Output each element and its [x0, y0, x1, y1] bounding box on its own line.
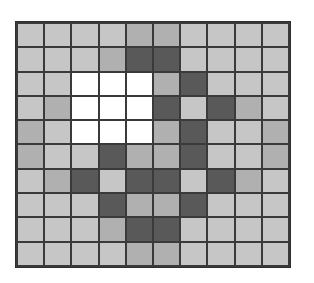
medium-gray-cell [100, 48, 125, 70]
light-gray-cell [18, 194, 43, 216]
dark-gray-cell [127, 218, 152, 240]
medium-gray-cell [18, 121, 43, 143]
dark-gray-cell [100, 145, 125, 167]
medium-gray-cell [127, 194, 152, 216]
dark-gray-cell [72, 170, 97, 192]
medium-gray-cell [154, 243, 179, 265]
white-cell [72, 97, 97, 119]
light-gray-cell [45, 194, 70, 216]
light-gray-cell [45, 243, 70, 265]
medium-gray-cell [154, 121, 179, 143]
light-gray-cell [181, 170, 206, 192]
dark-gray-cell [208, 170, 233, 192]
light-gray-cell [236, 73, 261, 95]
light-gray-cell [236, 24, 261, 46]
medium-gray-cell [154, 194, 179, 216]
light-gray-cell [18, 218, 43, 240]
medium-gray-cell [127, 145, 152, 167]
white-cell [127, 73, 152, 95]
medium-gray-cell [263, 145, 288, 167]
light-gray-cell [45, 24, 70, 46]
light-gray-cell [18, 97, 43, 119]
light-gray-cell [208, 145, 233, 167]
white-cell [100, 121, 125, 143]
white-cell [127, 121, 152, 143]
light-gray-cell [18, 48, 43, 70]
medium-gray-cell [127, 24, 152, 46]
medium-gray-cell [45, 170, 70, 192]
light-gray-cell [263, 194, 288, 216]
light-gray-cell [72, 145, 97, 167]
dark-gray-cell [154, 97, 179, 119]
dark-gray-cell [181, 145, 206, 167]
light-gray-cell [263, 170, 288, 192]
medium-gray-cell [263, 121, 288, 143]
image-canvas [0, 0, 314, 283]
light-gray-cell [263, 24, 288, 46]
dark-gray-cell [181, 121, 206, 143]
light-gray-cell [181, 218, 206, 240]
light-gray-cell [236, 194, 261, 216]
light-gray-cell [236, 243, 261, 265]
dark-gray-cell [154, 218, 179, 240]
light-gray-cell [208, 218, 233, 240]
light-gray-cell [45, 48, 70, 70]
light-gray-cell [263, 243, 288, 265]
light-gray-cell [72, 194, 97, 216]
light-gray-cell [208, 48, 233, 70]
dark-gray-cell [127, 48, 152, 70]
light-gray-cell [208, 121, 233, 143]
medium-gray-cell [154, 145, 179, 167]
medium-gray-cell [100, 218, 125, 240]
medium-gray-cell [154, 24, 179, 46]
light-gray-cell [236, 121, 261, 143]
light-gray-cell [236, 145, 261, 167]
dark-gray-cell [181, 73, 206, 95]
medium-gray-cell [18, 145, 43, 167]
medium-gray-cell [127, 243, 152, 265]
light-gray-cell [208, 24, 233, 46]
light-gray-cell [263, 73, 288, 95]
light-gray-cell [181, 243, 206, 265]
light-gray-cell [181, 24, 206, 46]
light-gray-cell [72, 218, 97, 240]
light-gray-cell [45, 145, 70, 167]
light-gray-cell [236, 218, 261, 240]
dark-gray-cell [154, 170, 179, 192]
white-cell [127, 97, 152, 119]
light-gray-cell [18, 73, 43, 95]
dark-gray-cell [208, 97, 233, 119]
light-gray-cell [18, 243, 43, 265]
light-gray-cell [208, 73, 233, 95]
light-gray-cell [45, 73, 70, 95]
light-gray-cell [100, 170, 125, 192]
light-gray-cell [181, 48, 206, 70]
medium-gray-cell [236, 97, 261, 119]
light-gray-cell [208, 243, 233, 265]
medium-gray-cell [45, 97, 70, 119]
light-gray-cell [72, 48, 97, 70]
light-gray-cell [100, 24, 125, 46]
light-gray-cell [208, 194, 233, 216]
dark-gray-cell [100, 194, 125, 216]
light-gray-cell [18, 170, 43, 192]
pixel-grid [15, 21, 291, 268]
dark-gray-cell [154, 48, 179, 70]
dark-gray-cell [127, 170, 152, 192]
light-gray-cell [181, 97, 206, 119]
white-cell [100, 97, 125, 119]
dark-gray-cell [181, 194, 206, 216]
light-gray-cell [72, 24, 97, 46]
light-gray-cell [263, 97, 288, 119]
light-gray-cell [45, 121, 70, 143]
white-cell [100, 73, 125, 95]
medium-gray-cell [154, 73, 179, 95]
white-cell [72, 73, 97, 95]
white-cell [72, 121, 97, 143]
light-gray-cell [45, 218, 70, 240]
medium-gray-cell [236, 170, 261, 192]
light-gray-cell [72, 243, 97, 265]
light-gray-cell [263, 218, 288, 240]
light-gray-cell [100, 243, 125, 265]
light-gray-cell [236, 48, 261, 70]
